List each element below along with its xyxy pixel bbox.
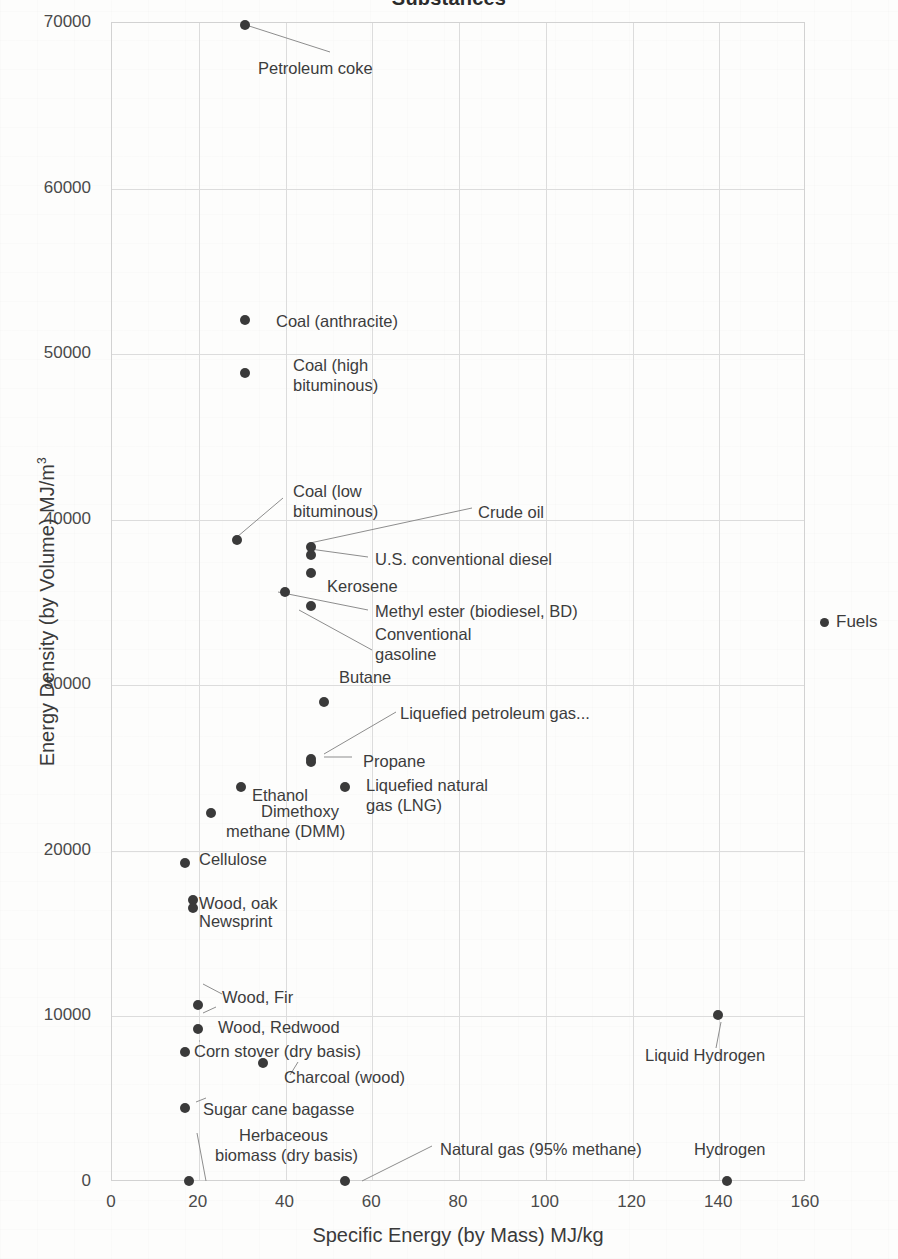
- y-axis-tick-label: 10000: [44, 1005, 91, 1025]
- gridline-horizontal: [112, 685, 804, 686]
- point-label: Coal (high: [293, 356, 368, 375]
- gridline-vertical: [372, 23, 373, 1180]
- data-point[interactable]: [306, 757, 316, 767]
- x-axis-tick-label: 160: [791, 1192, 819, 1212]
- data-point[interactable]: [180, 1047, 190, 1057]
- point-label: Coal (anthracite): [276, 312, 398, 331]
- data-point[interactable]: [180, 1103, 190, 1113]
- y-axis-tick-label: 70000: [44, 12, 91, 32]
- data-point[interactable]: [193, 1024, 203, 1034]
- legend-swatch-icon: [820, 618, 829, 627]
- point-label: Liquefied natural: [366, 776, 488, 795]
- x-axis-tick-label: 100: [531, 1192, 559, 1212]
- x-axis-tick-label: 140: [704, 1192, 732, 1212]
- data-point[interactable]: [180, 858, 190, 868]
- gridline-horizontal: [112, 189, 804, 190]
- point-label: Dimethoxy: [261, 802, 339, 821]
- point-label: Wood, oak: [199, 894, 278, 913]
- point-label: Corn stover (dry basis): [194, 1042, 361, 1061]
- point-label: Coal (low: [293, 482, 362, 501]
- data-point[interactable]: [306, 550, 316, 560]
- point-label: Sugar cane bagasse: [203, 1100, 354, 1119]
- point-label: Cellulose: [199, 850, 267, 869]
- point-label: biomass (dry basis): [215, 1146, 358, 1165]
- point-label: Natural gas (95% methane): [440, 1140, 642, 1159]
- gridline-vertical: [719, 23, 720, 1180]
- data-point[interactable]: [306, 601, 316, 611]
- chart-title: Substances: [0, 0, 898, 10]
- point-label: gas (LNG): [366, 796, 442, 815]
- point-label: Propane: [363, 752, 425, 771]
- y-axis-title-text: Energy Density (by Volume) MJ/m: [36, 464, 58, 766]
- gridline-vertical: [633, 23, 634, 1180]
- x-axis-tick-label: 60: [362, 1192, 381, 1212]
- data-point[interactable]: [306, 568, 316, 578]
- data-point[interactable]: [184, 1176, 194, 1186]
- x-axis-tick-label: 0: [106, 1192, 115, 1212]
- point-label: Conventional: [375, 625, 471, 644]
- gridline-horizontal: [112, 354, 804, 355]
- gridline-horizontal: [112, 520, 804, 521]
- point-label: Crude oil: [478, 503, 544, 522]
- point-label: Kerosene: [327, 577, 398, 596]
- point-label: Liquid Hydrogen: [645, 1046, 765, 1065]
- point-label: Methyl ester (biodiesel, BD): [375, 602, 578, 621]
- y-axis-title-exponent: 3: [35, 457, 49, 464]
- x-axis-title: Specific Energy (by Mass) MJ/kg: [111, 1224, 805, 1247]
- data-point[interactable]: [722, 1176, 732, 1186]
- point-label: methane (DMM): [226, 822, 345, 841]
- point-label: Hydrogen: [694, 1140, 766, 1159]
- y-axis-title: Energy Density (by Volume) MJ/m3: [35, 272, 59, 952]
- y-axis-tick-label: 0: [82, 1171, 91, 1191]
- point-label: Petroleum coke: [258, 59, 373, 78]
- y-axis-tick-label: 60000: [44, 178, 91, 198]
- point-label: Herbaceous: [239, 1126, 328, 1145]
- x-axis-tick-label: 80: [449, 1192, 468, 1212]
- x-axis-tick-label: 120: [617, 1192, 645, 1212]
- point-label: Charcoal (wood): [284, 1068, 405, 1087]
- legend[interactable]: Fuels: [820, 612, 878, 632]
- point-label: Wood, Fir: [222, 988, 293, 1007]
- point-label: bituminous): [293, 376, 378, 395]
- gridline-horizontal: [112, 1016, 804, 1017]
- point-label: Newsprint: [199, 912, 272, 931]
- x-axis-tick-label: 40: [275, 1192, 294, 1212]
- x-axis-tick-label: 20: [188, 1192, 207, 1212]
- point-label: Wood, Redwood: [218, 1018, 340, 1037]
- data-point[interactable]: [232, 535, 242, 545]
- point-label: bituminous): [293, 502, 378, 521]
- data-point[interactable]: [280, 587, 290, 597]
- data-point[interactable]: [340, 1176, 350, 1186]
- point-label: gasoline: [375, 645, 436, 664]
- point-label: U.S. conventional diesel: [375, 550, 552, 569]
- point-label: Butane: [339, 668, 391, 687]
- data-point[interactable]: [236, 782, 246, 792]
- point-label: Liquefied petroleum gas...: [400, 704, 590, 723]
- legend-label-fuels: Fuels: [836, 612, 878, 632]
